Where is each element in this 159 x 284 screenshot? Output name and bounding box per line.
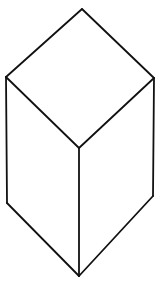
prism-diagram (0, 0, 159, 284)
edge-left-vertical (6, 77, 7, 203)
faces-group (6, 9, 154, 276)
edge-right-vertical (153, 78, 154, 196)
